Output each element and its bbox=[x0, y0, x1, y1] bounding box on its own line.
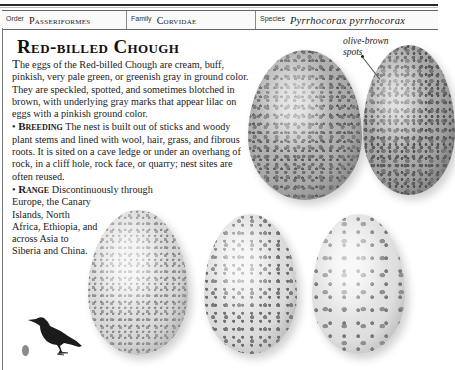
range-paragraph: • Range Discontinuously through bbox=[12, 183, 252, 196]
species-title: Red-billed Chough bbox=[17, 36, 179, 58]
intro-text: he eggs of the Red-billed Chough are cre… bbox=[12, 59, 249, 119]
egg-image-4 bbox=[204, 214, 297, 354]
top-rule bbox=[0, 4, 438, 6]
spots-callout: olive-brown spots bbox=[343, 36, 389, 58]
breeding-paragraph: • Breeding The nest is built out of stic… bbox=[12, 120, 252, 182]
bullet-icon: • bbox=[12, 184, 16, 195]
order-value: Passeriformes bbox=[29, 15, 91, 26]
taxonomy-bar: Order Passeriformes Family Corvidae Spec… bbox=[2, 10, 438, 30]
range-text-1: Discontinuously through bbox=[49, 184, 153, 195]
family-label: Family bbox=[131, 15, 152, 22]
family-value: Corvidae bbox=[157, 15, 197, 26]
bullet-icon: • bbox=[12, 121, 16, 132]
egg-image-1 bbox=[248, 50, 362, 200]
species-label: Species bbox=[260, 15, 285, 22]
top-rule-thin bbox=[0, 7, 438, 8]
callout-line-1: olive-brown bbox=[343, 36, 389, 47]
range-heading: Range bbox=[18, 183, 49, 195]
range-paragraph-cont: Europe, the Canary Islands, North Africa… bbox=[12, 196, 98, 257]
taxonomy-order: Order Passeriformes bbox=[2, 11, 126, 29]
species-value: Pyrrhocorax pyrrhocorax bbox=[290, 15, 405, 26]
breeding-heading: Breeding bbox=[18, 120, 63, 132]
range-text-2: Europe, the Canary Islands, North Africa… bbox=[12, 196, 97, 256]
chough-bird-icon bbox=[24, 314, 86, 358]
egg-image-2 bbox=[363, 45, 455, 195]
left-margin-rule bbox=[2, 28, 3, 370]
intro-paragraph: The eggs of the Red-billed Chough are cr… bbox=[12, 58, 252, 120]
taxonomy-family: Family Corvidae bbox=[126, 11, 255, 29]
dropcap: T bbox=[12, 56, 20, 71]
order-label: Order bbox=[6, 15, 24, 22]
callout-line-2: spots bbox=[343, 47, 389, 58]
egg-size-indicator-icon bbox=[22, 345, 29, 356]
taxonomy-species: Species Pyrrhocorax pyrrhocorax bbox=[255, 11, 438, 29]
egg-image-5 bbox=[312, 214, 405, 354]
